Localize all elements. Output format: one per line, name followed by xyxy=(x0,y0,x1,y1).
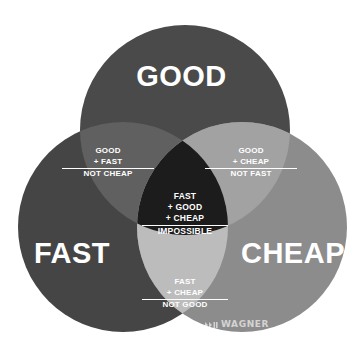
zone-line: FAST xyxy=(142,277,228,288)
brand-wordmark: WAGNER xyxy=(221,320,269,329)
brand-logo: WAGNER xyxy=(205,320,269,329)
zone-line: + FAST xyxy=(62,157,154,168)
zone-line: + CHEAP xyxy=(142,288,228,299)
zone-line: GOOD xyxy=(205,146,297,157)
set-label-good: GOOD xyxy=(0,62,363,91)
zone-line-conclusion: NOT FAST xyxy=(205,168,297,180)
chevrons-icon xyxy=(205,321,218,329)
zone-line-conclusion: IMPOSSIBLE xyxy=(142,225,228,238)
intersection-label-fast-cheap: FAST + CHEAP NOT GOOD xyxy=(142,277,228,311)
zone-line: + GOOD xyxy=(142,202,228,213)
intersection-label-good-cheap: GOOD + CHEAP NOT FAST xyxy=(205,146,297,180)
intersection-label-good-fast-cheap: FAST + GOOD + CHEAP IMPOSSIBLE xyxy=(142,191,228,237)
zone-line: FAST xyxy=(142,191,228,202)
zone-line: + CHEAP xyxy=(142,213,228,224)
set-label-cheap: CHEAP xyxy=(228,239,358,268)
venn-diagram: GOOD FAST CHEAP GOOD + FAST NOT CHEAP GO… xyxy=(0,0,363,360)
zone-line: + CHEAP xyxy=(205,157,297,168)
intersection-label-good-fast: GOOD + FAST NOT CHEAP xyxy=(62,146,154,180)
set-label-fast: FAST xyxy=(17,239,127,268)
zone-line: GOOD xyxy=(62,146,154,157)
zone-line-conclusion: NOT CHEAP xyxy=(62,168,154,180)
zone-line-conclusion: NOT GOOD xyxy=(142,299,228,311)
